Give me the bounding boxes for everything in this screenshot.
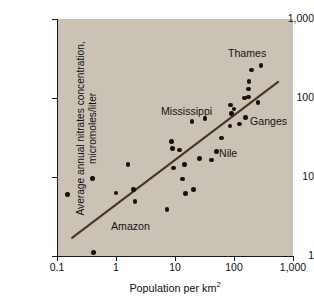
data-point [183,191,188,196]
data-point [197,156,202,161]
river-label-mississippi: Mississippi [161,106,212,117]
data-point [65,192,70,197]
y-tick-100 [52,98,57,99]
data-point [246,95,251,100]
y-tick-label-100: 100 [266,92,314,103]
x-tick-label-100: 100 [214,262,254,273]
y-axis-label-line1: Average annual nitrates concentration, [75,41,86,215]
data-point [229,111,234,116]
data-point [259,63,264,68]
y-tick-label-10: 10 [266,171,314,182]
y-axis-line [57,19,58,257]
nitrates-vs-population-scatter-figure: 1,000 100 10 1 0.1 1 10 100 1,000 Averag… [0,0,314,304]
data-point [209,158,214,163]
data-point [131,187,136,192]
x-axis-label-exponent: 2 [216,280,220,289]
x-tick-label-1: 1 [96,262,136,273]
data-point [171,166,176,171]
x-axis-label-text: Population per km [129,282,216,294]
y-tick-10 [52,177,57,178]
y-tick-label-1000: 1,000 [266,13,314,24]
x-axis-label: Population per km2 [57,280,293,294]
data-point [237,122,242,127]
river-label-nile: Nile [219,148,237,159]
data-point [165,207,170,212]
y-tick-1000 [52,19,57,20]
data-point [133,199,138,204]
y-axis-label-wrap: Average annual nitrates concentration, m… [0,0,50,256]
data-point [243,115,248,120]
x-tick-label-0.1: 0.1 [37,262,77,273]
x-tick-label-1000: 1,000 [273,262,313,273]
data-point [169,139,174,144]
data-point [170,146,175,151]
y-axis-label-line2: micromoles/liter [87,92,98,163]
data-point [191,187,196,192]
data-point [90,176,95,181]
data-point [214,149,219,154]
river-label-thames: Thames [228,48,266,59]
data-point [256,100,261,105]
river-label-ganges: Ganges [250,116,287,127]
x-tick-label-10: 10 [155,262,195,273]
data-point [247,79,252,84]
data-point [182,162,187,167]
data-point [177,148,182,153]
river-label-amazon: Amazon [111,221,150,232]
y-tick-label-1: 1 [266,250,314,261]
data-point [126,162,131,167]
y-axis-label: Average annual nitrates concentration, m… [75,41,100,215]
